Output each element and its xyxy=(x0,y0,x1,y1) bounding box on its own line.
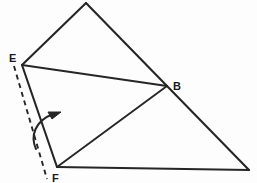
rotation-arrow xyxy=(34,112,61,149)
edge-b-right xyxy=(167,86,249,170)
figure-edges xyxy=(22,3,249,170)
edge-e-b xyxy=(22,65,167,86)
edge-e-apex xyxy=(22,3,86,65)
vertex-label-e: E xyxy=(9,52,16,64)
edge-right-f xyxy=(57,167,249,170)
rotation-arrow-head xyxy=(48,112,61,119)
vertex-label-f: F xyxy=(52,172,59,183)
edge-apex-b xyxy=(86,3,167,86)
edge-f-b xyxy=(57,86,167,167)
geometry-figure: E B F xyxy=(0,0,257,183)
geometry-diagram: E B F xyxy=(0,0,257,183)
vertex-label-b: B xyxy=(173,80,181,92)
